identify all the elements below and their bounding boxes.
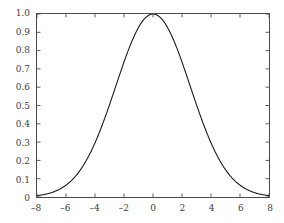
x-tick-label: 2 — [179, 204, 185, 213]
x-tick-label: –8 — [31, 204, 41, 213]
x-tick-label: –6 — [60, 204, 70, 213]
x-tick-label: 4 — [209, 204, 215, 213]
y-tick-label: 0.8 — [0, 46, 30, 55]
y-tick-label: 0.6 — [0, 83, 30, 92]
y-tick-label: 0.9 — [0, 27, 30, 36]
y-tick-label: 1.0 — [0, 9, 30, 18]
x-tick-label: 6 — [238, 204, 244, 213]
y-tick-label: 0 — [0, 194, 30, 203]
gaussian-curve — [37, 14, 269, 197]
y-tick-label: 0.1 — [0, 175, 30, 184]
plot-area — [36, 13, 270, 198]
y-tick-label: 0.3 — [0, 138, 30, 147]
x-tick-label: 0 — [150, 204, 156, 213]
y-tick-label: 0.7 — [0, 64, 30, 73]
x-tick-label: –4 — [89, 204, 99, 213]
y-tick-label: 0.4 — [0, 120, 30, 129]
x-tick-label: –2 — [119, 204, 129, 213]
y-tick-label: 0.2 — [0, 157, 30, 166]
y-tick-label: 0.5 — [0, 101, 30, 110]
figure-canvas: 00.10.20.30.40.50.60.70.80.91.0 –8–6–4–2… — [0, 0, 284, 223]
curve-path — [37, 14, 269, 196]
x-tick-label: 8 — [267, 204, 273, 213]
